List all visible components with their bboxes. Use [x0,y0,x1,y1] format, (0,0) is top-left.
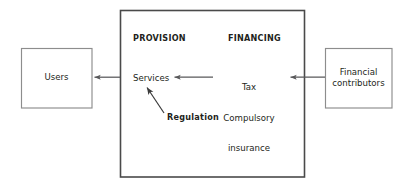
funding-source-line-compulsory: Compulsory [213,113,285,123]
node-funding-sources: Tax Compulsory insurance [213,62,285,174]
section-heading-provision: PROVISION [133,34,186,44]
funding-source-line-insurance: insurance [213,143,285,153]
users-box-label: Users [21,48,92,108]
financial-contributors-line-2: contributors [332,78,384,89]
arrow-regulation-to-services [147,88,164,114]
financial-contributors-line-1: Financial [340,67,378,78]
node-regulation: Regulation [167,113,219,123]
funding-source-line-tax: Tax [213,82,285,92]
financial-contributors-box-label: Financial contributors [325,48,392,108]
diagram-canvas: PROVISION FINANCING Services Tax Compuls… [0,0,413,191]
section-heading-financing: FINANCING [228,34,281,44]
node-services: Services [133,73,169,83]
